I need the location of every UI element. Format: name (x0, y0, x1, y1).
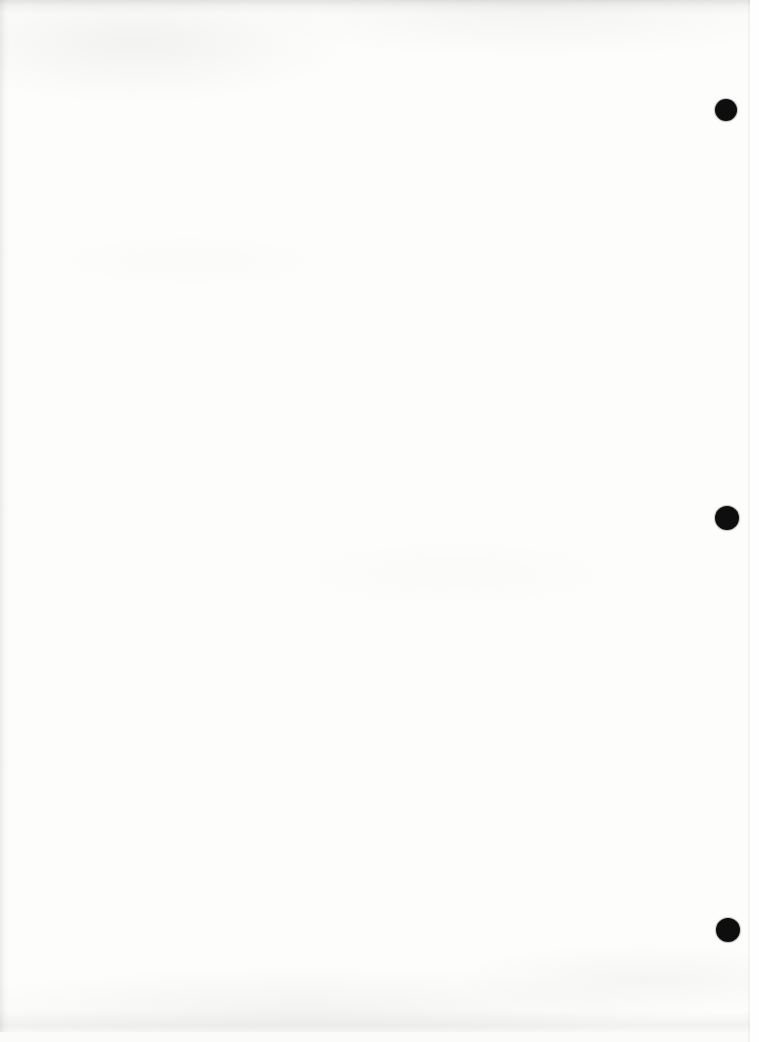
scan-shadow-top-edge (0, 0, 759, 14)
paper-edge-margin (750, 0, 759, 1042)
paper-edge-line (748, 0, 750, 1042)
hole-punch-dot (715, 99, 737, 121)
scan-shadow-bottom-edge (0, 1010, 759, 1032)
scan-noise-texture (0, 0, 759, 1042)
hole-punch-dot (716, 918, 740, 942)
scan-bottom-strip (0, 1032, 759, 1042)
scanned-page (0, 0, 759, 1042)
hole-punch-dot (715, 506, 739, 530)
scan-shadow-left-edge (0, 0, 10, 1042)
